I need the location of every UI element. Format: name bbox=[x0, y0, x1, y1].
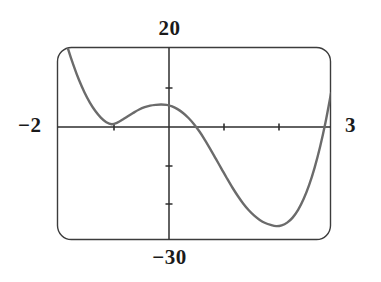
plot-canvas bbox=[0, 0, 381, 282]
calculator-graph-figure: 20 −30 −2 3 bbox=[0, 0, 381, 282]
calculator-screen-frame bbox=[58, 48, 331, 240]
